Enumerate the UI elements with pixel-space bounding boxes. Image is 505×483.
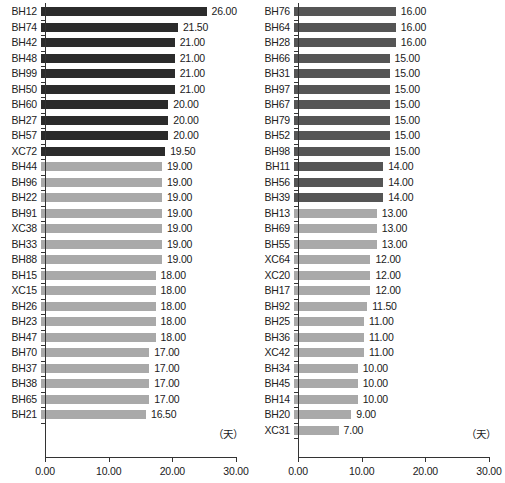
bar <box>41 100 168 109</box>
bar-value-label: 21.00 <box>180 68 205 79</box>
category-label: BH92 <box>253 301 294 312</box>
bar-track: 15.00 <box>294 82 505 98</box>
bar-row: BH3319.00 <box>0 237 252 253</box>
category-label: BH57 <box>0 130 41 141</box>
bar-value-label: 21.00 <box>180 53 205 64</box>
x-axis-tick-label: 30.00 <box>223 465 248 477</box>
y-axis-tick <box>41 113 45 114</box>
bar-value-label: 16.00 <box>401 22 426 33</box>
bar-row: BH5720.00 <box>0 128 252 144</box>
bar-value-label: 7.00 <box>344 425 364 436</box>
bar-value-label: 11.00 <box>369 347 394 358</box>
bar-value-label: 12.00 <box>375 285 400 296</box>
category-label: BH74 <box>0 22 41 33</box>
bar-row: BH3410.00 <box>253 361 505 377</box>
category-label: BH37 <box>0 363 41 374</box>
bar-row: BH7616.00 <box>253 4 505 20</box>
category-label: BH79 <box>253 115 294 126</box>
y-axis-tick <box>41 392 45 393</box>
bar <box>41 302 156 311</box>
category-label: BH38 <box>0 378 41 389</box>
bar-value-label: 17.00 <box>154 363 179 374</box>
bar-track: 13.00 <box>294 206 505 222</box>
bar <box>294 255 370 264</box>
bar-row: BH3717.00 <box>0 361 252 377</box>
bar <box>41 333 156 342</box>
bar-track: 20.00 <box>41 113 252 129</box>
bar <box>41 255 162 264</box>
bar-value-label: 10.00 <box>363 394 388 405</box>
bar <box>294 395 358 404</box>
y-axis-tick <box>294 20 298 21</box>
y-axis-tick <box>41 128 45 129</box>
bar-row: BH7017.00 <box>0 345 252 361</box>
bar <box>294 364 358 373</box>
y-axis-tick <box>41 206 45 207</box>
bar <box>41 131 168 140</box>
bar-row: BH5215.00 <box>253 128 505 144</box>
y-axis-tick <box>41 97 45 98</box>
bar-track: 15.00 <box>294 66 505 82</box>
bar-row: BH6517.00 <box>0 392 252 408</box>
unit-label-left: （天） <box>213 428 243 440</box>
bar-row: BH1114.00 <box>253 159 505 175</box>
x-axis-tick <box>425 457 426 462</box>
chart-panel-left: BH1226.00BH7421.50BH4221.00BH4821.00BH99… <box>0 0 252 483</box>
category-label: BH55 <box>253 239 294 250</box>
x-axis-tick <box>45 457 46 462</box>
y-axis-tick <box>41 376 45 377</box>
bar <box>41 348 149 357</box>
category-label: BH76 <box>253 6 294 17</box>
bar-track: 21.00 <box>41 82 252 98</box>
category-label: BH91 <box>0 208 41 219</box>
x-axis-tick-label: 30.00 <box>476 465 501 477</box>
bar-track: 16.00 <box>294 35 505 51</box>
x-axis-tick-label: 10.00 <box>349 465 374 477</box>
bar-track: 16.00 <box>294 4 505 20</box>
category-label: BH65 <box>0 394 41 405</box>
bar <box>41 395 149 404</box>
category-label: BH70 <box>0 347 41 358</box>
bar-row: BH9119.00 <box>0 206 252 222</box>
bar <box>41 193 162 202</box>
bar <box>294 271 370 280</box>
x-axis-tick <box>172 457 173 462</box>
bar <box>41 7 207 16</box>
bar-row: BH2219.00 <box>0 190 252 206</box>
bar-value-label: 19.00 <box>167 223 192 234</box>
bar-track: 21.00 <box>41 35 252 51</box>
y-axis-tick <box>294 314 298 315</box>
bar-value-label: 14.00 <box>388 161 413 172</box>
bar <box>294 240 377 249</box>
category-label: BH45 <box>253 378 294 389</box>
bar-track: 18.00 <box>41 283 252 299</box>
category-label: XC20 <box>253 270 294 281</box>
bar-track: 20.00 <box>41 97 252 113</box>
bar-row: BH209.00 <box>253 407 505 423</box>
y-axis-tick <box>41 66 45 67</box>
category-label: BH21 <box>0 409 41 420</box>
bar <box>294 147 390 156</box>
category-label: BH17 <box>253 285 294 296</box>
bar-row: BH9715.00 <box>253 82 505 98</box>
category-label: BH96 <box>0 177 41 188</box>
bar-rows-right: BH7616.00BH6416.00BH2816.00BH6615.00BH31… <box>253 4 505 438</box>
bar-row: BH4419.00 <box>0 159 252 175</box>
category-label: BH13 <box>253 208 294 219</box>
bar-value-label: 11.50 <box>372 301 397 312</box>
bar-row: BH6020.00 <box>0 97 252 113</box>
bar-value-label: 14.00 <box>388 177 413 188</box>
bar-row: BH4510.00 <box>253 376 505 392</box>
category-label: XC31 <box>253 425 294 436</box>
category-label: BH36 <box>253 332 294 343</box>
bar-row: BH6715.00 <box>253 97 505 113</box>
bar <box>41 147 165 156</box>
category-label: BH12 <box>0 6 41 17</box>
bar-row: BH5513.00 <box>253 237 505 253</box>
category-label: BH34 <box>253 363 294 374</box>
bar-track: 20.00 <box>41 128 252 144</box>
y-axis-tick <box>294 299 298 300</box>
bar-track: 11.00 <box>294 314 505 330</box>
y-axis-tick <box>41 237 45 238</box>
bar-value-label: 16.00 <box>401 6 426 17</box>
